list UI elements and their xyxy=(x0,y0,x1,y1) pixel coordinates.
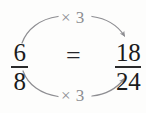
equivalent-fractions-diagram: 6 8 = 18 24 × 3 × 3 xyxy=(0,0,146,113)
right-fraction-denominator: 24 xyxy=(115,68,141,94)
curved-arrow-bottom-left-segment xyxy=(23,71,58,97)
bottom-multiplier-label: × 3 xyxy=(61,87,85,104)
left-fraction: 6 8 xyxy=(11,40,28,94)
right-fraction: 18 24 xyxy=(115,40,141,94)
curved-arrow-top-right-segment xyxy=(92,17,125,37)
left-fraction-numerator: 6 xyxy=(12,40,26,66)
top-multiplier-label: × 3 xyxy=(61,9,85,26)
right-fraction-numerator: 18 xyxy=(115,40,141,66)
equals-sign: = xyxy=(66,43,81,69)
left-fraction-denominator: 8 xyxy=(12,68,26,94)
